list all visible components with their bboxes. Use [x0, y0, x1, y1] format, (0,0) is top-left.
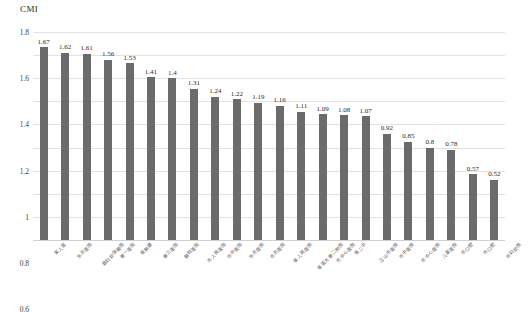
bar-column[interactable]: 0.8: [419, 32, 440, 240]
bar[interactable]: [340, 115, 348, 240]
bar-series: 1.671.621.611.561.531.411.41.311.241.221…: [33, 32, 505, 240]
x-axis-category-label: 市口腔: [461, 242, 475, 256]
bar[interactable]: [126, 63, 134, 240]
bar-column[interactable]: 1.16: [269, 32, 290, 240]
bar-column[interactable]: 1.19: [248, 32, 269, 240]
bar-column[interactable]: 1.61: [76, 32, 97, 240]
x-axis-category-label: 江山市医院: [378, 242, 399, 263]
bar[interactable]: [276, 106, 284, 240]
bar[interactable]: [447, 150, 455, 240]
bar-value-label: 1.07: [359, 107, 371, 115]
bar-value-label: 1.11: [295, 102, 307, 110]
bar-column[interactable]: 0.85: [398, 32, 419, 240]
x-axis-category-label: 省肿瘤: [139, 242, 153, 256]
x-axis-category-label: 市人民医院: [206, 242, 227, 263]
bar[interactable]: [104, 60, 112, 240]
bar-value-label: 1.56: [102, 50, 114, 58]
x-axis-category-label: 脑科医院: [183, 242, 201, 260]
bar-value-label: 1.09: [317, 105, 329, 113]
bar[interactable]: [211, 97, 219, 240]
bar-column[interactable]: 1.22: [226, 32, 247, 240]
bar-value-label: 1.24: [209, 87, 221, 95]
bar-column[interactable]: 1.07: [355, 32, 376, 240]
bar-value-label: 1.4: [168, 69, 177, 77]
x-axis-category-label: 儿童医院: [441, 242, 459, 260]
bar-column[interactable]: 0.52: [484, 32, 505, 240]
bar-value-label: 1.08: [338, 106, 350, 114]
chart-title: CMI: [20, 4, 38, 14]
bar-value-label: 0.8: [426, 138, 435, 146]
bar[interactable]: [362, 116, 370, 240]
bar[interactable]: [297, 112, 305, 240]
bar-column[interactable]: 0.57: [462, 32, 483, 240]
x-axis-labels: 某人医东总医院县妇幼保健院第一医院省肿瘤第三医院脑科医院市人民医院市中医院东总医…: [33, 242, 505, 312]
bar-column[interactable]: 1.09: [312, 32, 333, 240]
bar-column[interactable]: 1.31: [183, 32, 204, 240]
bar-value-label: 0.52: [488, 170, 500, 178]
x-axis-category-label: 省人民医院: [292, 242, 313, 263]
bar[interactable]: [469, 174, 477, 240]
bar[interactable]: [168, 78, 176, 240]
x-axis-category-label: 市中医院: [398, 242, 416, 260]
y-axis-tick-label: 1.8: [20, 28, 29, 37]
bar-value-label: 1.16: [274, 96, 286, 104]
x-axis-category-label: 第三医院: [162, 242, 180, 260]
bar-value-label: 1.61: [81, 44, 93, 52]
bar-value-label: 1.67: [38, 38, 50, 46]
y-axis-tick-label: 1.2: [20, 166, 29, 175]
bar-value-label: 0.78: [445, 140, 457, 148]
y-axis-tick-label: 0.6: [20, 305, 29, 312]
bar[interactable]: [404, 142, 412, 240]
x-axis-category-label: 某人医: [53, 242, 67, 256]
plot-area: 00.20.40.60.811.21.41.61.8 1.671.621.611…: [33, 32, 505, 240]
bar-column[interactable]: 1.56: [97, 32, 118, 240]
bar[interactable]: [233, 99, 241, 240]
bar-column[interactable]: 1.08: [333, 32, 354, 240]
bar[interactable]: [426, 148, 434, 240]
bar[interactable]: [190, 89, 198, 240]
bar-column[interactable]: 1.41: [140, 32, 161, 240]
x-axis-category-label: 市总医院: [269, 242, 287, 260]
bar-value-label: 0.57: [467, 165, 479, 173]
x-axis-category-label: 东总医院: [76, 242, 94, 260]
x-axis-category-label: 市妇幼院: [505, 242, 523, 260]
bar-value-label: 0.92: [381, 124, 393, 132]
bar[interactable]: [490, 180, 498, 240]
bar-column[interactable]: 0.78: [441, 32, 462, 240]
bar-column[interactable]: 1.62: [54, 32, 75, 240]
bar-column[interactable]: 1.24: [205, 32, 226, 240]
bar-value-label: 1.19: [252, 93, 264, 101]
x-axis-category-label: 东总医院: [248, 242, 266, 260]
bar[interactable]: [254, 103, 262, 241]
bar[interactable]: [147, 77, 155, 240]
bar-value-label: 1.41: [145, 68, 157, 76]
x-axis-category-label: 市中医院: [226, 242, 244, 260]
cmi-bar-chart: CMI 00.20.40.60.811.21.41.61.8 1.671.621…: [0, 0, 532, 312]
x-axis-category-label: 市口腔: [482, 242, 496, 256]
bar-value-label: 0.85: [402, 132, 414, 140]
gridline: 0: [33, 240, 505, 241]
bar[interactable]: [40, 47, 48, 240]
bar-value-label: 1.22: [231, 90, 243, 98]
x-axis-category-label: 市中心医院: [421, 242, 442, 263]
bar[interactable]: [319, 114, 327, 240]
bar[interactable]: [383, 134, 391, 240]
bar-value-label: 1.31: [188, 79, 200, 87]
bar-column[interactable]: 1.4: [162, 32, 183, 240]
bar[interactable]: [83, 54, 91, 240]
y-axis-tick-label: 1: [25, 212, 29, 221]
bar-column[interactable]: 1.67: [33, 32, 54, 240]
bar-column[interactable]: 1.11: [290, 32, 311, 240]
bar-column[interactable]: 0.92: [376, 32, 397, 240]
y-axis-tick-label: 1.6: [20, 74, 29, 83]
bar-value-label: 1.53: [123, 54, 135, 62]
bar-column[interactable]: 1.53: [119, 32, 140, 240]
y-axis-tick-label: 1.4: [20, 120, 29, 129]
bar-value-label: 1.62: [59, 43, 71, 51]
y-axis-tick-label: 0.8: [20, 259, 29, 268]
bar[interactable]: [61, 53, 69, 240]
